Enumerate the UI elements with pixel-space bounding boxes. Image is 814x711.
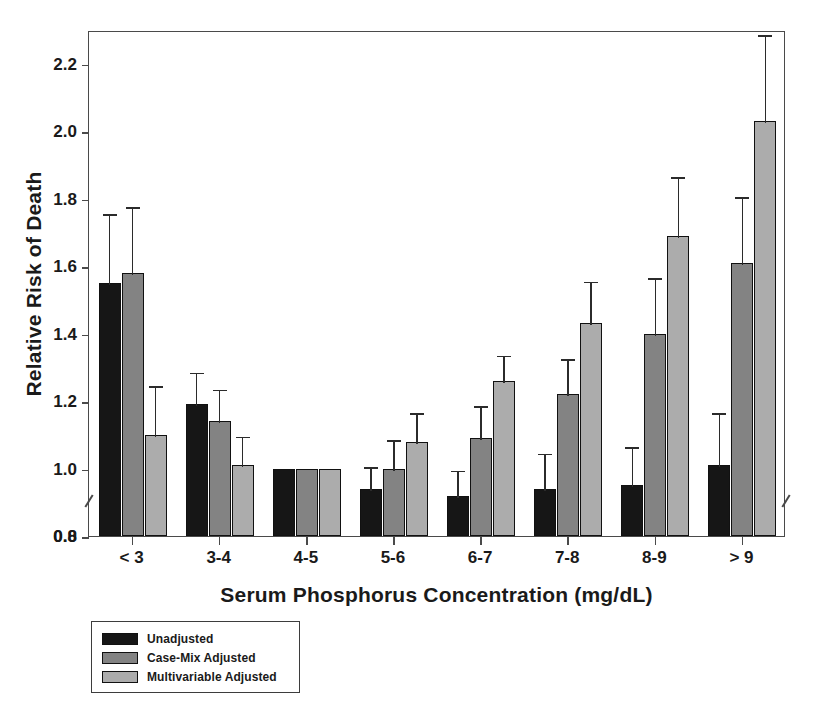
x-tick-mark	[567, 536, 569, 545]
x-axis-title: Serum Phosphorus Concentration (mg/dL)	[88, 583, 785, 607]
error-bar-line	[457, 471, 459, 498]
legend-label: Case-Mix Adjusted	[147, 651, 256, 665]
error-bar-line	[544, 454, 546, 491]
error-bar-line	[219, 390, 221, 424]
x-tick-mark	[219, 536, 221, 545]
y-tick-label: 1.4	[37, 325, 77, 345]
error-bar-line	[632, 447, 634, 487]
error-bar-cap	[758, 35, 772, 37]
figure-chart: Relative Risk of Death 2.22.01.81.61.41.…	[0, 0, 814, 711]
error-bar-line	[719, 413, 721, 467]
x-tick-mark	[132, 536, 134, 545]
x-tick-label: 3-4	[174, 548, 264, 568]
bar	[383, 469, 405, 536]
bar	[186, 404, 208, 536]
bar	[470, 438, 492, 536]
y-tick-mark	[82, 200, 89, 202]
y-tick-mark	[82, 132, 89, 134]
y-axis-title: Relative Risk of Death	[22, 134, 46, 434]
legend-swatch-icon	[102, 652, 138, 664]
bar	[122, 273, 144, 536]
legend-swatch-icon	[102, 633, 138, 645]
bar	[296, 469, 318, 536]
y-tick-label: 1.0	[37, 460, 77, 480]
bar	[319, 469, 341, 536]
error-bar-cap	[625, 447, 639, 449]
error-bar-line	[416, 413, 418, 443]
error-bar-cap	[561, 359, 575, 361]
error-bar-line	[678, 177, 680, 238]
plot-area: 2.22.01.81.61.41.21.00.80.0	[88, 31, 785, 537]
error-bar-cap	[648, 278, 662, 280]
x-tick-mark	[742, 536, 744, 545]
y-tick-label: 0.0	[37, 527, 77, 547]
y-tick-label: 1.6	[37, 257, 77, 277]
error-bar-line	[590, 282, 592, 326]
error-bar-line	[109, 214, 111, 285]
x-tick-label: < 3	[87, 548, 177, 568]
bar	[534, 489, 556, 536]
x-tick-label: 6-7	[435, 548, 525, 568]
bar	[708, 465, 730, 536]
error-bar-cap	[236, 437, 250, 439]
y-tick-mark	[82, 335, 89, 337]
y-tick-mark	[82, 65, 89, 67]
y-tick-label: 1.8	[37, 190, 77, 210]
bar	[667, 236, 689, 536]
x-tick-label: > 9	[696, 548, 786, 568]
x-tick-label: 7-8	[522, 548, 612, 568]
bar	[209, 421, 231, 536]
y-tick-mark	[82, 267, 89, 269]
error-bar-line	[393, 440, 395, 470]
legend-label: Multivariable Adjusted	[147, 670, 277, 684]
error-bar-cap	[712, 413, 726, 415]
error-bar-cap	[451, 471, 465, 473]
axis-break-left-icon	[84, 495, 93, 508]
error-bar-line	[742, 197, 744, 264]
error-bar-cap	[126, 207, 140, 209]
bar	[145, 435, 167, 536]
error-bar-line	[370, 467, 372, 491]
y-tick-label: 2.0	[37, 122, 77, 142]
x-tick-label: 5-6	[348, 548, 438, 568]
y-tick-mark	[82, 402, 89, 404]
error-bar-cap	[190, 373, 204, 375]
bar	[493, 381, 515, 536]
error-bar-line	[196, 373, 198, 407]
bar	[644, 334, 666, 536]
legend-swatch-icon	[102, 671, 138, 683]
bar	[99, 283, 121, 536]
y-tick-label: 1.2	[37, 392, 77, 412]
error-bar-cap	[410, 413, 424, 415]
error-bar-cap	[497, 356, 511, 358]
error-bar-cap	[671, 177, 685, 179]
bar	[754, 121, 776, 536]
error-bar-cap	[584, 282, 598, 284]
error-bar-line	[655, 278, 657, 335]
error-bar-cap	[735, 197, 749, 199]
legend-item: Case-Mix Adjusted	[92, 648, 299, 667]
bar	[731, 263, 753, 536]
x-tick-mark	[393, 536, 395, 545]
x-tick-mark	[306, 536, 308, 545]
x-tick-mark	[480, 536, 482, 545]
x-tick-mark	[655, 536, 657, 545]
error-bar-line	[132, 207, 134, 274]
error-bar-cap	[149, 386, 163, 388]
legend: UnadjustedCase-Mix AdjustedMultivariable…	[91, 621, 300, 693]
axis-break-right-icon	[781, 495, 790, 508]
error-bar-cap	[387, 440, 401, 442]
y-tick-label: 2.2	[37, 55, 77, 75]
legend-item: Multivariable Adjusted	[92, 667, 299, 686]
bar	[580, 323, 602, 536]
cropped-header-artifact	[120, 0, 680, 12]
error-bar-line	[242, 437, 244, 467]
error-bar-line	[155, 386, 157, 437]
error-bar-cap	[538, 454, 552, 456]
error-bar-line	[480, 406, 482, 440]
error-bar-line	[765, 35, 767, 123]
bar	[232, 465, 254, 536]
bar	[273, 469, 295, 536]
bar	[621, 485, 643, 536]
error-bar-line	[503, 356, 505, 383]
